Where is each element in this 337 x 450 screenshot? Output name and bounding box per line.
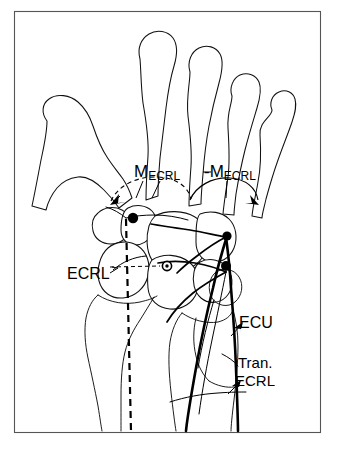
label-ecu: ECU (239, 314, 273, 331)
bone-radius-medial-border (121, 297, 154, 431)
bone-lunate (148, 255, 199, 309)
ulnar-insertion-dot-upper (222, 231, 231, 240)
wrist-diagram-canvas: MECRL -MECRL ECRL ECU Tran. ECRL (0, 0, 337, 450)
center-of-rotation-core-icon (165, 264, 168, 267)
bone-radius (85, 295, 102, 431)
label-moment-radial-symbol: M (134, 162, 148, 181)
label-transverse-ecrl-line1: Tran. (238, 354, 272, 371)
ulnar-insertion-dot-lower (221, 261, 231, 271)
radial-insertion-dot (128, 213, 138, 223)
bone-distal-radioulnar-line (209, 381, 234, 387)
metacarpal-group (32, 31, 296, 218)
forearm-group (85, 295, 238, 431)
bone-metacarpal-thumb (32, 95, 132, 210)
bone-metacarpal-middle (187, 46, 222, 206)
label-moment-ulnar-symbol: M (210, 162, 224, 181)
anatomical-figure-panel: MECRL -MECRL ECRL ECU Tran. ECRL (0, 0, 337, 450)
tendon-strand-b (198, 300, 214, 368)
label-leader-moment-radial-a (136, 181, 143, 198)
label-ecrl: ECRL (67, 265, 110, 282)
bone-metacarpal-ring (223, 74, 260, 215)
bone-ulna (169, 313, 182, 431)
label-moment-radial-subscript: ECRL (148, 169, 180, 183)
label-moment-ulnar-subscript: ECRL (224, 169, 256, 183)
label-transverse-ecrl-line2: ECRL (235, 372, 275, 389)
bone-metacarpal-little (252, 91, 296, 218)
